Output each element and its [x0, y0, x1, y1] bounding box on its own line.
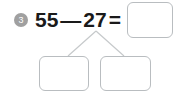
- worksheet-problem: 3 55 — 27 =: [0, 0, 187, 103]
- problem-number-badge: 3: [14, 13, 28, 27]
- equation: 55 — 27 =: [35, 8, 123, 32]
- minuend: 55: [35, 8, 58, 32]
- branch-line-right: [96, 31, 124, 56]
- branch-line-left: [68, 31, 96, 56]
- answer-input-box[interactable]: [127, 2, 173, 38]
- minus-sign: —: [58, 8, 83, 32]
- equals-sign: =: [107, 8, 123, 32]
- decomposition-left-input-box[interactable]: [39, 56, 89, 91]
- subtrahend: 27: [83, 8, 106, 32]
- decomposition-right-input-box[interactable]: [100, 56, 151, 91]
